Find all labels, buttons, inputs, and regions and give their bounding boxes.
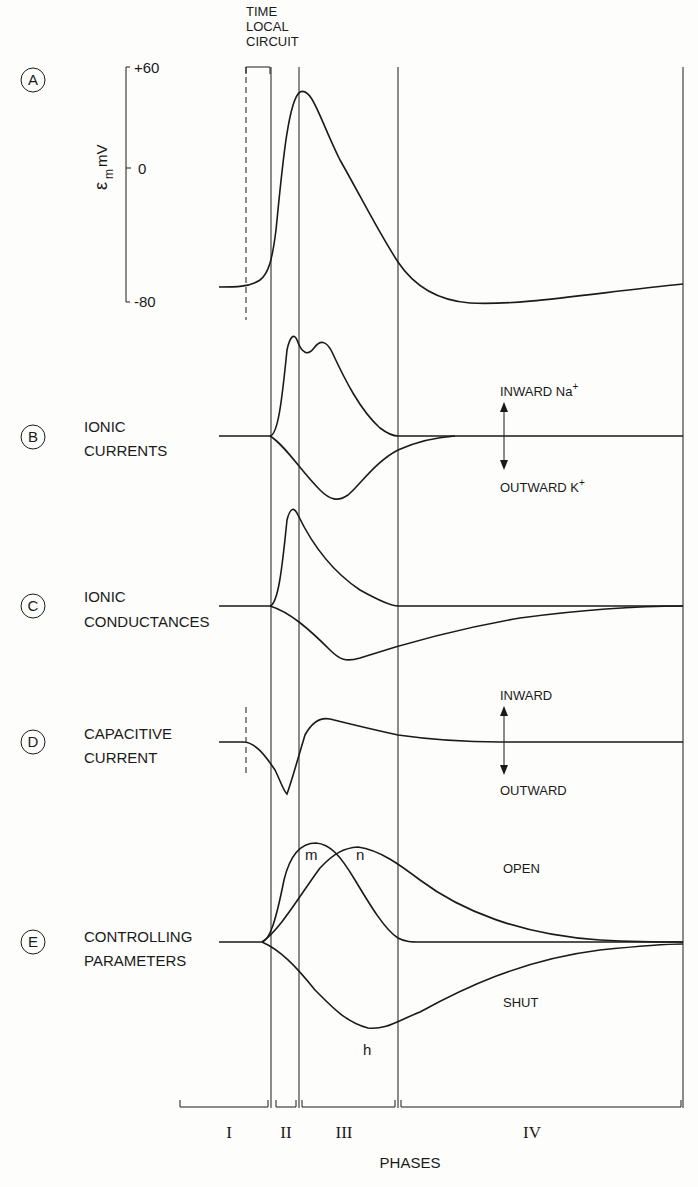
circuit-label: CIRCUIT: [246, 34, 299, 49]
k-conductance: [270, 606, 683, 660]
open-label: OPEN: [503, 861, 540, 876]
local-label: LOCAL: [246, 19, 289, 34]
action-potential-figure: TIME LOCAL CIRCUIT A +60 0 -80 ε m mV B …: [0, 0, 698, 1187]
tick-minus80: -80: [134, 293, 156, 310]
h-label: h: [363, 1041, 371, 1058]
panel-a: A +60 0 -80 ε m mV: [21, 59, 683, 310]
m-label: m: [305, 846, 318, 863]
y-axis-a: [126, 67, 130, 302]
svg-text:B: B: [28, 428, 38, 445]
y-axis-label: ε m mV: [91, 145, 116, 191]
inward-na-label: INWARD Na+: [500, 381, 578, 399]
svg-text:CONTROLLING: CONTROLLING: [84, 928, 192, 945]
svg-text:CURRENTS: CURRENTS: [84, 442, 167, 459]
na-conductance: [219, 509, 683, 606]
panel-d: D CAPACITIVE CURRENT INWARD OUTWARD: [21, 688, 683, 798]
m-curve: [219, 843, 683, 942]
tick-0: 0: [138, 160, 146, 177]
phase-brackets: I II III IV PHASES: [180, 1100, 681, 1171]
panel-e: E CONTROLLING PARAMETERS m n h OPEN SHUT: [21, 843, 683, 1058]
svg-text:IONIC: IONIC: [84, 588, 126, 605]
tick-plus60: +60: [134, 59, 159, 76]
time-local-circuit-bracket: TIME LOCAL CIRCUIT: [246, 4, 299, 74]
svg-text:PARAMETERS: PARAMETERS: [84, 952, 186, 969]
svg-text:CURRENT: CURRENT: [84, 749, 157, 766]
n-curve: [262, 847, 683, 942]
phase-1-label: I: [226, 1123, 232, 1142]
shut-label: SHUT: [503, 995, 538, 1010]
time-label: TIME: [246, 4, 277, 19]
inward-label: INWARD: [500, 688, 552, 703]
svg-text:A: A: [28, 71, 38, 88]
capacitive-current-curve: [219, 719, 683, 794]
svg-text:D: D: [28, 733, 39, 750]
phase-4-label: IV: [523, 1123, 542, 1142]
svg-text:mV: mV: [93, 145, 110, 168]
n-label: n: [356, 846, 364, 863]
h-curve: [262, 942, 683, 1028]
outward-label: OUTWARD: [500, 783, 567, 798]
phase-3-label: III: [336, 1123, 353, 1142]
outward-k-label: OUTWARD K+: [500, 477, 585, 495]
svg-text:ε: ε: [91, 182, 111, 190]
svg-text:C: C: [28, 597, 39, 614]
phases-title: PHASES: [380, 1154, 441, 1171]
svg-text:E: E: [28, 933, 38, 950]
outward-k-current: [270, 436, 455, 499]
panel-b: B IONIC CURRENTS INWARD Na+ OUTWARD K+: [21, 336, 683, 499]
svg-text:CONDUCTANCES: CONDUCTANCES: [84, 613, 210, 630]
phase-2-label: II: [280, 1123, 292, 1142]
phase-boundaries: [246, 67, 683, 1108]
panel-c: C IONIC CONDUCTANCES: [21, 509, 683, 660]
membrane-potential-curve: [219, 91, 683, 303]
svg-text:IONIC: IONIC: [84, 418, 126, 435]
inward-na-current: [219, 336, 683, 436]
svg-text:m: m: [102, 169, 116, 179]
svg-text:CAPACITIVE: CAPACITIVE: [84, 725, 172, 742]
